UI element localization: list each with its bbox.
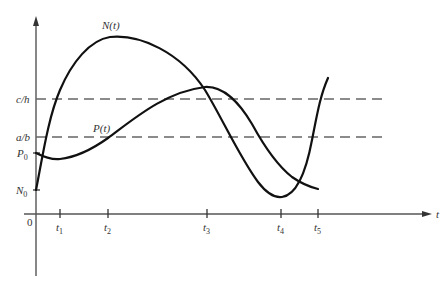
p-curve-label: P(t) (92, 122, 110, 135)
c-over-h-label: c/h (16, 93, 30, 105)
p-curve (36, 87, 318, 189)
t2-label: t2 (104, 221, 111, 236)
t-axis-arrow-icon (422, 211, 432, 217)
y-axis-arrow-icon (33, 16, 39, 26)
t1-label: t1 (56, 221, 63, 236)
t5-label: t5 (314, 221, 321, 236)
t-axis-label: t (436, 208, 440, 220)
phase-chart: t 0 c/h a/b P0 N0 t1 t2 t3 t4 t5 N(t) P(… (0, 0, 447, 291)
n0-label: N0 (15, 184, 27, 199)
origin-label: 0 (27, 216, 33, 228)
t3-label: t3 (203, 221, 210, 236)
n-curve-label: N(t) (101, 19, 120, 32)
p0-label: P0 (16, 147, 28, 162)
a-over-b-label: a/b (16, 131, 31, 143)
x-ticks: t1 t2 t3 t4 t5 (56, 209, 321, 236)
n-curve (36, 37, 328, 197)
t4-label: t4 (277, 221, 284, 236)
